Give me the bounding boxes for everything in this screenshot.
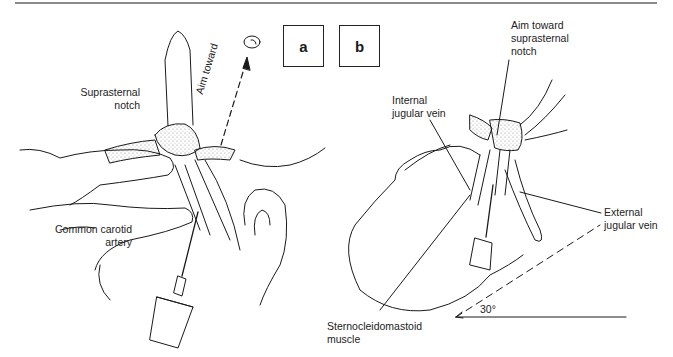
label-line: Internal	[392, 94, 446, 107]
label-line: notch	[80, 99, 140, 112]
label-line: jugular vein	[392, 107, 446, 120]
panel-a-letter: a	[299, 38, 307, 55]
label-line: suprasternal	[511, 32, 569, 45]
chin-outline	[165, 31, 193, 126]
label-line: Suprasternal	[80, 86, 140, 99]
label-angle-30: 30°	[480, 303, 496, 316]
label-external-jugular-vein: External jugular vein	[604, 206, 658, 232]
label-line: External	[604, 206, 658, 219]
label-aim-toward-suprasternal-notch: Aim toward suprasternal notch	[511, 19, 569, 58]
label-line: muscle	[327, 333, 422, 346]
label-line: artery	[50, 236, 132, 249]
label-text: 30°	[480, 303, 496, 315]
label-line: Common carotid	[50, 223, 132, 236]
panel-a-label: a	[283, 25, 324, 67]
illustration	[0, 0, 673, 357]
label-common-carotid-artery: Common carotid artery	[50, 223, 132, 249]
panel-b-letter: b	[355, 38, 364, 55]
label-line: notch	[511, 45, 569, 58]
label-line: Aim toward	[511, 19, 569, 32]
label-line: jugular vein	[604, 219, 658, 232]
label-sternocleidomastoid-muscle: Sternocleidomastoid muscle	[327, 320, 422, 346]
label-internal-jugular-vein: Internal jugular vein	[392, 94, 446, 120]
label-line: Sternocleidomastoid	[327, 320, 422, 333]
label-suprasternal-notch: Suprasternal notch	[80, 86, 140, 112]
panel-b-label: b	[339, 25, 380, 67]
